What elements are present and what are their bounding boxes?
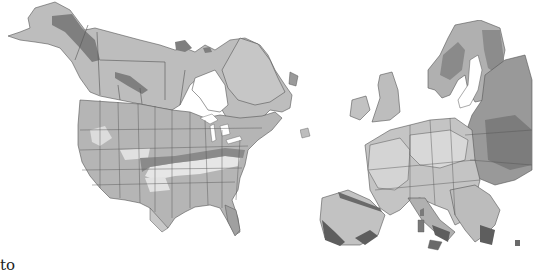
north-america-map-graphic: [0, 0, 300, 250]
europe-map: [300, 20, 539, 255]
caption-fragment: to: [0, 258, 15, 271]
europe-map-graphic: [300, 20, 539, 255]
north-america-map: [0, 0, 300, 250]
